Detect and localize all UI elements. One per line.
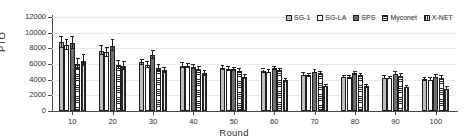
y-tick-label: 4000 (29, 76, 46, 84)
error-cap-upper (307, 73, 311, 74)
bar-x-net-round-20 (121, 66, 126, 111)
x-tick-mark (274, 111, 275, 115)
legend-label: SG-1 (294, 14, 310, 22)
error-cap-lower (145, 67, 149, 68)
bar-sg-1-round-70 (301, 75, 306, 111)
bar-myconet-round-90 (398, 76, 403, 111)
bar-myconet-round-10 (75, 64, 80, 111)
error-cap-upper (157, 64, 161, 65)
x-tick-label: 10 (68, 117, 76, 126)
x-tick-label: 100 (430, 117, 443, 126)
error-cap-upper (76, 58, 80, 59)
error-cap-upper (342, 75, 346, 76)
x-tick-label: 50 (230, 117, 238, 126)
bar-sps-round-30 (150, 55, 155, 111)
error-cap-lower (180, 67, 184, 68)
bar-sps-round-10 (70, 43, 75, 111)
error-cap-lower (162, 72, 166, 73)
x-tick-mark (395, 111, 396, 115)
bar-group (382, 17, 409, 111)
error-cap-upper (70, 36, 74, 37)
error-cap-lower (353, 74, 357, 75)
error-cap-upper (65, 39, 69, 40)
error-cap-upper (428, 77, 432, 78)
legend-label: SG-LA (325, 14, 346, 22)
error-cap-lower (405, 87, 409, 88)
bar-sps-round-40 (191, 67, 196, 111)
error-cap-upper (203, 70, 207, 71)
bar-group (139, 17, 166, 111)
bar-x-net-round-80 (364, 86, 369, 111)
bar-sg-la-round-90 (387, 78, 392, 111)
x-tick-mark (234, 111, 235, 115)
bar-x-net-round-90 (404, 87, 409, 111)
legend-label: X-NET (432, 14, 453, 22)
error-cap-upper (221, 65, 225, 66)
error-cap-upper (122, 61, 126, 62)
bar-myconet-round-20 (116, 65, 121, 111)
error-cap-upper (267, 69, 271, 70)
bar-sg-la-round-100 (428, 80, 433, 111)
bar-sg-1-round-50 (220, 68, 225, 111)
bar-sg-la-round-40 (185, 66, 190, 111)
chart-legend: SG-1SG-LASPSMyconetX-NET (286, 14, 453, 22)
error-cap-lower (272, 69, 276, 70)
x-tick-label: 80 (351, 117, 359, 126)
bar-group (301, 17, 328, 111)
bar-group (180, 17, 207, 111)
error-cap-lower (439, 78, 443, 79)
x-tick-label: 40 (189, 117, 197, 126)
bar-x-net-round-60 (283, 80, 288, 111)
legend-swatch-icon (382, 15, 388, 21)
bar-sps-round-90 (393, 74, 398, 111)
error-cap-lower (388, 78, 392, 79)
error-cap-lower (151, 58, 155, 59)
error-cap-upper (237, 68, 241, 69)
y-tick-label: 6000 (29, 60, 46, 68)
bar-sg-la-round-50 (226, 69, 231, 111)
error-cap-lower (59, 47, 63, 48)
error-cap-lower (364, 87, 368, 88)
bar-x-net-round-100 (444, 89, 449, 111)
error-cap-lower (82, 65, 86, 66)
error-cap-lower (122, 69, 126, 70)
bar-sps-round-50 (231, 69, 236, 111)
error-cap-lower (232, 70, 236, 71)
x-tick-mark (72, 111, 73, 115)
error-cap-lower (243, 78, 247, 79)
error-cap-upper (145, 61, 149, 62)
error-cap-upper (359, 73, 363, 74)
bar-sg-la-round-30 (145, 65, 150, 111)
error-cap-lower (191, 68, 195, 69)
error-cap-upper (59, 36, 63, 37)
bar-sg-1-round-20 (99, 51, 104, 111)
error-cap-lower (301, 75, 305, 76)
error-cap-lower (278, 71, 282, 72)
bar-sg-1-round-10 (59, 42, 64, 111)
x-tick-mark (113, 111, 114, 115)
error-cap-lower (111, 50, 115, 51)
bar-x-net-round-40 (202, 73, 207, 111)
error-cap-lower (393, 74, 397, 75)
y-axis-title: PTO (0, 32, 7, 52)
error-cap-lower (428, 80, 432, 81)
bar-myconet-round-80 (358, 75, 363, 111)
legend-swatch-icon (424, 15, 430, 21)
error-cap-upper (399, 73, 403, 74)
error-cap-upper (324, 84, 328, 85)
error-cap-upper (105, 47, 109, 48)
legend-item-x-net: X-NET (424, 14, 453, 22)
bar-x-net-round-50 (242, 77, 247, 111)
error-cap-lower (186, 67, 190, 68)
bar-myconet-round-70 (318, 73, 323, 111)
error-cap-lower (324, 86, 328, 87)
error-cap-lower (318, 74, 322, 75)
error-cap-upper (318, 71, 322, 72)
error-cap-upper (140, 59, 144, 60)
error-cap-upper (191, 64, 195, 65)
bar-myconet-round-60 (277, 70, 282, 111)
error-cap-upper (301, 72, 305, 73)
error-cap-lower (445, 89, 449, 90)
bar-myconet-round-100 (439, 78, 444, 111)
error-cap-upper (232, 67, 236, 68)
